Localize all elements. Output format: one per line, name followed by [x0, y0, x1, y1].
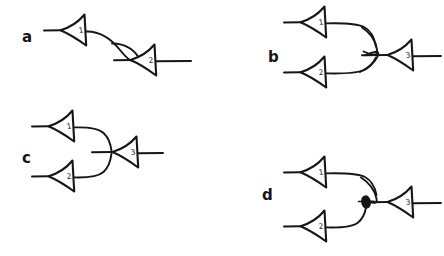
panel-d-neuron-1: 1 — [284, 157, 326, 188]
panel-letter-b: b — [268, 48, 279, 66]
panel-a-neuron-1: 1 — [44, 15, 86, 46]
panel-c-axon-1 — [74, 127, 111, 150]
panel-c-neuron-1: 1 — [32, 111, 74, 142]
panel-d: d 1 2 — [262, 157, 441, 242]
panel-letter-d: d — [262, 186, 273, 204]
figure-canvas: a 1 2 b — [0, 0, 444, 256]
panel-letter-a: a — [22, 28, 32, 46]
panel-a-neuron-2: 2 — [114, 45, 191, 76]
neuron-connectivity-figure: a 1 2 b — [0, 0, 444, 256]
panel-d-neuron-3: 3 — [370, 187, 441, 218]
panel-c-axon-2 — [74, 154, 111, 178]
panel-c-neuron-3: 3 — [92, 137, 163, 168]
panel-b-axon-2 — [326, 58, 376, 74]
panel-c-neuron-2: 2 — [32, 161, 74, 192]
panel-c: c 1 2 3 — [22, 111, 163, 192]
panel-b-neuron-2: 2 — [284, 57, 326, 88]
panel-b: b 1 2 3 — [268, 7, 441, 88]
panel-d-neuron-2: 2 — [284, 211, 326, 242]
panel-d-axon-2 — [326, 208, 366, 228]
panel-b-neuron-3: 3 — [362, 40, 441, 71]
panel-b-axon-1 — [326, 23, 376, 46]
panel-a: a 1 2 — [22, 15, 191, 76]
panel-letter-c: c — [22, 149, 31, 167]
panel-b-neuron-1: 1 — [284, 7, 326, 38]
